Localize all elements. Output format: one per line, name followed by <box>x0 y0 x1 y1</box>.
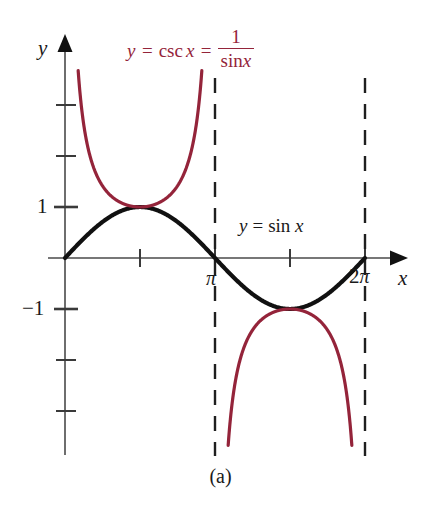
csc-fraction-numerator: 1 <box>226 27 246 47</box>
cosecant-curve-branch-1 <box>78 71 202 207</box>
csc-fraction-denominator: sinx <box>218 50 255 72</box>
y-axis-group <box>58 34 73 455</box>
sin-function-name: sin <box>268 215 290 236</box>
x-axis-arrowhead <box>390 251 408 266</box>
two-pi-symbol: π <box>360 265 370 287</box>
y-axis-label: y <box>38 38 47 59</box>
csc-denominator-argument: x <box>243 50 251 71</box>
y-tick-label-one: 1 <box>37 196 48 217</box>
csc-lhs-variable: y <box>127 41 136 60</box>
two-pi-coefficient: 2 <box>349 264 360 288</box>
figure-caption: (a) <box>0 466 441 486</box>
y-axis-arrowhead <box>58 34 73 52</box>
csc-denominator-function: sin <box>221 50 243 71</box>
sin-equals-sign: = <box>247 215 268 236</box>
csc-equals-sign-2: = <box>195 41 218 60</box>
csc-fraction-bar <box>218 48 255 50</box>
csc-function-argument: x <box>186 41 195 60</box>
x-axis-label: x <box>398 268 407 289</box>
cosecant-curve-branch-2 <box>228 309 352 445</box>
cosecant-equation-label: y=cscx=1sinx <box>127 28 254 73</box>
x-tick-label-two-pi: 2π <box>349 266 370 287</box>
figure-container: y x 1 −1 π 2π y=cscx=1sinx y=sin x (a) <box>0 0 441 505</box>
sin-function-argument: x <box>295 215 303 236</box>
plot-svg <box>0 0 441 505</box>
csc-fraction: 1sinx <box>218 27 255 72</box>
x-tick-label-pi: π <box>206 268 216 288</box>
sine-equation-label: y=sin x <box>239 216 304 235</box>
y-tick-label-negative-one: −1 <box>22 298 44 319</box>
csc-equals-sign-1: = <box>136 41 159 60</box>
csc-function-name: csc <box>159 41 186 60</box>
